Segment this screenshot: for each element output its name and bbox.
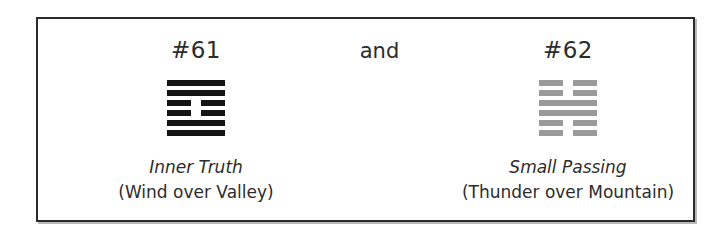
hexagram-line-6: [539, 130, 597, 136]
line-segment: [167, 110, 191, 116]
line-segment: [539, 110, 597, 116]
line-gap: [563, 80, 573, 86]
hexagram-column-right: #62: [443, 19, 693, 201]
line-gap: [563, 130, 573, 136]
line-segment: [539, 90, 563, 96]
line-segment: [201, 100, 225, 106]
line-segment: [573, 120, 597, 126]
hexagram-name-left: Inner Truth: [149, 158, 243, 177]
line-gap: [563, 120, 573, 126]
conjunction-column: and: [325, 19, 435, 62]
line-segment: [573, 90, 597, 96]
line-segment: [167, 80, 225, 86]
line-gap: [191, 100, 201, 106]
line-segment: [167, 90, 225, 96]
hexagram-glyph-right: [539, 80, 597, 136]
line-gap: [563, 90, 573, 96]
hexagram-line-3: [539, 100, 597, 106]
hexagram-trigram-right: (Thunder over Mountain): [462, 183, 674, 202]
line-segment: [573, 130, 597, 136]
hexagram-line-1: [167, 80, 225, 86]
line-segment: [539, 130, 563, 136]
hexagram-line-2: [539, 90, 597, 96]
hexagram-line-2: [167, 90, 225, 96]
hexagram-comparison-row: #61: [38, 19, 693, 220]
hexagram-trigram-left: (Wind over Valley): [118, 183, 273, 202]
hexagram-line-5: [539, 120, 597, 126]
line-segment: [539, 80, 563, 86]
line-segment: [167, 120, 225, 126]
hexagram-name-right: Small Passing: [509, 158, 626, 177]
hexagram-line-3: [167, 100, 225, 106]
hexagram-line-4: [167, 110, 225, 116]
hexagram-column-left: #61: [80, 19, 312, 201]
hexagram-glyph-left: [167, 80, 225, 136]
line-segment: [167, 100, 191, 106]
line-segment: [573, 80, 597, 86]
hexagram-line-6: [167, 130, 225, 136]
hexagram-figure-panel: #61: [36, 17, 695, 222]
hexagram-line-5: [167, 120, 225, 126]
line-gap: [191, 110, 201, 116]
line-segment: [539, 120, 563, 126]
hexagram-number-left: #61: [171, 39, 221, 62]
hexagram-line-4: [539, 110, 597, 116]
line-segment: [539, 100, 597, 106]
line-segment: [167, 130, 225, 136]
line-segment: [201, 110, 225, 116]
conjunction-label: and: [360, 41, 400, 62]
hexagram-number-right: #62: [543, 39, 593, 62]
hexagram-line-1: [539, 80, 597, 86]
